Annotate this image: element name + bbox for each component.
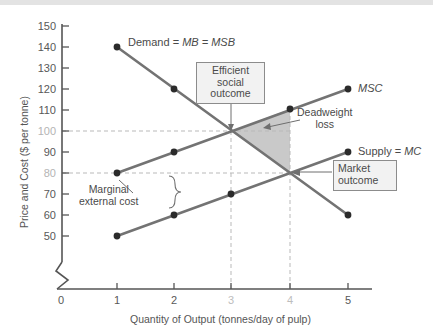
supply-point-5-90 (345, 149, 352, 156)
y-tick-marks (62, 26, 69, 236)
x-axis-title: Quantity of Output (tonnes/day of pulp) (130, 313, 311, 325)
y-tick-label-50: 50 (30, 230, 56, 242)
demand-label-italic: MB = MSB (182, 36, 235, 48)
supply-point-1-50 (114, 233, 121, 240)
x-tick-label-0: 0 (53, 294, 69, 306)
y-tick-label-100: 100 (30, 125, 56, 137)
axis-break-zigzag (56, 262, 68, 289)
deadweight-loss-label: Deadweight loss (297, 106, 352, 130)
x-tick-label-3: 3 (223, 294, 239, 306)
y-tick-label-70: 70 (30, 188, 56, 200)
x-tick-label-4: 4 (282, 294, 298, 306)
market-line-2: outcome (338, 175, 392, 187)
y-tick-label-150: 150 (30, 20, 56, 32)
efficient-social-outcome-callout: Efficient social outcome (196, 62, 265, 104)
market-outcome-callout: Market outcome (333, 160, 397, 191)
y-tick-label-110: 110 (30, 104, 56, 116)
x-tick-label-5: 5 (340, 294, 356, 306)
demand-point-5-60 (345, 212, 352, 219)
demand-curve-label: Demand = MB = MSB (128, 36, 235, 48)
supply-curve-label: Supply = MC (358, 145, 421, 157)
demand-label-plain: Demand = (128, 36, 182, 48)
supply-point-3-70 (228, 191, 235, 198)
deadweight-loss-shaded-region (231, 109, 290, 173)
y-tick-label-120: 120 (30, 83, 56, 95)
deadweight-line-1: Deadweight (297, 106, 352, 118)
efficient-line-3: outcome (201, 88, 260, 100)
x-tick-label-2: 2 (166, 294, 182, 306)
mec-line-1: Marginal (79, 183, 139, 195)
y-tick-label-60: 60 (30, 209, 56, 221)
y-tick-label-140: 140 (30, 41, 56, 53)
x-tick-marks (117, 283, 348, 289)
market-line-1: Market (338, 163, 392, 175)
msc-point-2-90 (171, 149, 178, 156)
msc-point-4-110 (287, 106, 294, 113)
efficient-line-1: Efficient (201, 65, 260, 77)
supply-label-italic: MC (404, 145, 421, 157)
msc-point-1-80 (114, 170, 121, 177)
msc-curve-label: MSC (358, 82, 382, 94)
marginal-external-cost-brace (169, 176, 181, 208)
marginal-external-cost-label: Marginal external cost (79, 183, 139, 207)
deadweight-line-2: loss (297, 118, 352, 130)
supply-point-2-60 (171, 212, 178, 219)
supply-label-plain: Supply = (358, 145, 404, 157)
y-axis-title: Price and Cost ($ per tonne) (18, 96, 30, 228)
demand-point-1-140 (114, 44, 121, 51)
y-tick-label-90: 90 (30, 146, 56, 158)
demand-point-2-120 (171, 86, 178, 93)
mec-line-2: external cost (79, 195, 139, 207)
y-tick-label-130: 130 (30, 62, 56, 74)
y-tick-label-80: 80 (30, 167, 56, 179)
msc-point-5-120 (345, 86, 352, 93)
x-tick-label-1: 1 (109, 294, 125, 306)
